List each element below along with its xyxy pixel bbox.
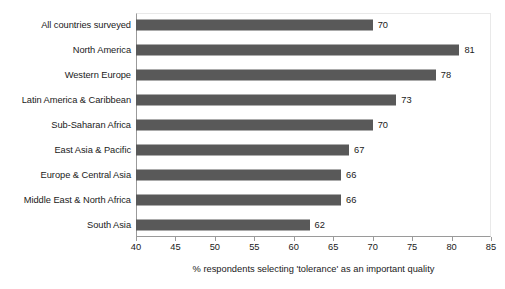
bar bbox=[136, 119, 373, 130]
x-tick-mark bbox=[136, 237, 137, 241]
x-tick-label: 80 bbox=[446, 242, 456, 252]
bar-rows: All countries surveyed70North America81W… bbox=[0, 13, 505, 237]
chart-title bbox=[0, 0, 505, 3]
bar-row: Sub-Saharan Africa70 bbox=[0, 113, 505, 138]
x-tick-mark bbox=[175, 237, 176, 241]
x-tick-label: 50 bbox=[210, 242, 220, 252]
x-tick-label: 70 bbox=[367, 242, 377, 252]
value-label: 78 bbox=[441, 70, 451, 80]
bar-row: South Asia62 bbox=[0, 212, 505, 237]
x-tick-label: 60 bbox=[289, 242, 299, 252]
category-label: Middle East & North Africa bbox=[24, 195, 131, 205]
bar bbox=[136, 169, 341, 180]
bar-row: Middle East & North Africa66 bbox=[0, 187, 505, 212]
x-tick-label: 45 bbox=[170, 242, 180, 252]
x-tick-mark bbox=[254, 237, 255, 241]
bar bbox=[136, 20, 373, 31]
x-tick-mark bbox=[412, 237, 413, 241]
value-label: 62 bbox=[315, 220, 325, 230]
bar-row: Latin America & Caribbean73 bbox=[0, 88, 505, 113]
x-tick-label: 65 bbox=[328, 242, 338, 252]
bar-row: All countries surveyed70 bbox=[0, 13, 505, 38]
x-tick-mark bbox=[215, 237, 216, 241]
category-label: South Asia bbox=[87, 220, 131, 230]
category-label: East Asia & Pacific bbox=[54, 145, 131, 155]
bar bbox=[136, 194, 341, 205]
x-tick-mark bbox=[452, 237, 453, 241]
x-tick-label: 55 bbox=[249, 242, 259, 252]
category-label: All countries surveyed bbox=[41, 20, 131, 30]
value-label: 70 bbox=[378, 120, 388, 130]
x-axis-title: % respondents selecting 'tolerance' as a… bbox=[136, 264, 491, 274]
bar bbox=[136, 144, 349, 155]
category-label: North America bbox=[73, 45, 131, 55]
x-tick-label: 75 bbox=[407, 242, 417, 252]
bar-row: Europe & Central Asia66 bbox=[0, 162, 505, 187]
x-tick-mark bbox=[333, 237, 334, 241]
bar bbox=[136, 70, 436, 81]
x-tick-mark bbox=[373, 237, 374, 241]
category-label: Western Europe bbox=[65, 70, 131, 80]
value-label: 66 bbox=[346, 195, 356, 205]
category-label: Sub-Saharan Africa bbox=[51, 120, 131, 130]
bar-row: East Asia & Pacific67 bbox=[0, 137, 505, 162]
value-label: 81 bbox=[464, 45, 474, 55]
category-label: Latin America & Caribbean bbox=[22, 95, 131, 105]
x-tick-mark bbox=[294, 237, 295, 241]
x-axis: 40455055606570758085 bbox=[0, 237, 505, 257]
value-label: 73 bbox=[401, 95, 411, 105]
bar bbox=[136, 219, 310, 230]
bar-row: Western Europe78 bbox=[0, 63, 505, 88]
bar bbox=[136, 45, 459, 56]
value-label: 66 bbox=[346, 170, 356, 180]
value-label: 70 bbox=[378, 20, 388, 30]
value-label: 67 bbox=[354, 145, 364, 155]
x-tick-label: 85 bbox=[486, 242, 496, 252]
category-label: Europe & Central Asia bbox=[41, 170, 131, 180]
bar bbox=[136, 95, 396, 106]
x-tick-label: 40 bbox=[131, 242, 141, 252]
x-tick-mark bbox=[491, 237, 492, 241]
bar-row: North America81 bbox=[0, 38, 505, 63]
bar-chart: All countries surveyed70North America81W… bbox=[0, 0, 505, 289]
